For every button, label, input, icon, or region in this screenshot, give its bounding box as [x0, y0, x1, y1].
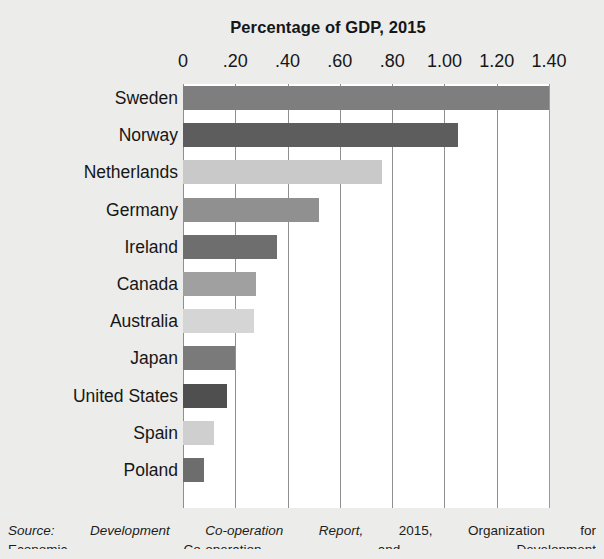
x-tick-label: 1.40: [531, 50, 566, 72]
x-tick-label: .20: [223, 50, 248, 72]
bar-row: Poland: [0, 458, 604, 482]
bar-row: United States: [0, 384, 604, 408]
bar-row: Spain: [0, 421, 604, 445]
category-label: Ireland: [124, 233, 178, 261]
source-note: Source: Development Co-operation Report,…: [8, 521, 596, 549]
category-label: Spain: [133, 419, 178, 447]
source-line-1-rest: 2015, Organization for: [399, 523, 596, 538]
x-tick-label: .60: [327, 50, 352, 72]
bar-row: Netherlands: [0, 160, 604, 184]
bar: [183, 86, 549, 110]
bar-row: Australia: [0, 309, 604, 333]
source-line-1: Source: Development Co-operation Report,…: [8, 521, 596, 540]
source-citation: Source: Development Co-operation Report,: [8, 523, 363, 538]
x-tick-label: 0: [178, 50, 188, 72]
category-label: Australia: [110, 307, 178, 335]
bar-row: Ireland: [0, 235, 604, 259]
bar-row: Norway: [0, 123, 604, 147]
x-tick-label: 1.00: [427, 50, 462, 72]
category-label: Norway: [119, 121, 178, 149]
bar-rows: SwedenNorwayNetherlandsGermanyIrelandCan…: [0, 84, 604, 508]
bar: [183, 160, 382, 184]
category-label: Germany: [106, 196, 178, 224]
category-label: Canada: [117, 270, 178, 298]
chart-page: Percentage of GDP, 2015 0.20.40.60.801.0…: [0, 0, 604, 559]
bar-row: Germany: [0, 198, 604, 222]
x-tick-label: .40: [275, 50, 300, 72]
x-tick-label: .80: [380, 50, 405, 72]
bar: [183, 123, 458, 147]
category-label: Japan: [130, 344, 178, 372]
x-tick-label: 1.20: [479, 50, 514, 72]
bar: [183, 384, 227, 408]
bar: [183, 458, 204, 482]
bar: [183, 309, 254, 333]
chart-title: Percentage of GDP, 2015: [0, 18, 604, 37]
category-label: Sweden: [115, 84, 178, 112]
category-label: Poland: [124, 456, 179, 484]
bar-row: Japan: [0, 346, 604, 370]
x-axis-tick-labels: 0.20.40.60.801.001.201.40: [0, 50, 604, 74]
bar: [183, 421, 214, 445]
bar-row: Canada: [0, 272, 604, 296]
bar: [183, 272, 256, 296]
category-label: Netherlands: [84, 158, 178, 186]
bar: [183, 235, 277, 259]
category-label: United States: [73, 382, 178, 410]
bar-row: Sweden: [0, 86, 604, 110]
bar: [183, 346, 235, 370]
bar: [183, 198, 319, 222]
source-line-2: Economic Co-operation and Development: [8, 540, 596, 549]
